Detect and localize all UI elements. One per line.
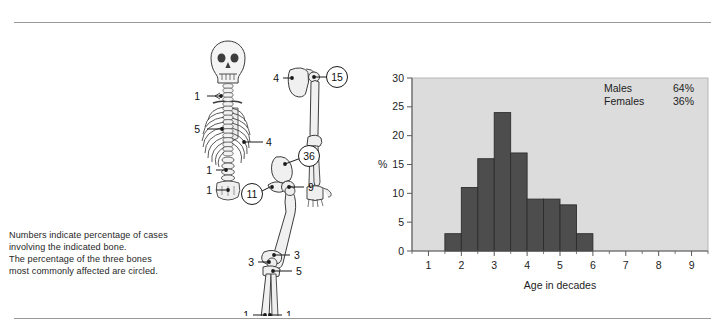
- legend-label: Males: [604, 82, 632, 94]
- humerus-bone: [310, 81, 319, 140]
- x-axis-title: Age in decades: [524, 279, 596, 291]
- label-scapula: 4: [273, 72, 279, 84]
- y-tick-label: 0: [398, 245, 404, 257]
- skull-icon: [211, 41, 245, 83]
- axial-skeleton: [202, 41, 250, 200]
- bar[interactable]: [544, 199, 560, 251]
- y-tick-label: 30: [392, 72, 404, 84]
- label-pubis: 11: [247, 188, 258, 200]
- label-clavicle: 1: [194, 90, 200, 102]
- label-lumbar-spine: 1: [206, 164, 212, 176]
- y-tick-label: 20: [392, 129, 404, 141]
- label-distal-fibula: 1: [286, 309, 292, 316]
- thoracic-spine-bones: [223, 102, 233, 156]
- legend-label: Females: [604, 95, 644, 107]
- bar[interactable]: [511, 153, 527, 251]
- top-divider: [14, 22, 711, 23]
- x-tick-label: 1: [426, 259, 432, 271]
- x-tick-label: 2: [458, 259, 464, 271]
- figure-caption: Numbers indicate percentage of cases inv…: [9, 230, 239, 278]
- chart-svg: 051015202530%123456789Age in decadesMale…: [372, 66, 717, 296]
- x-tick-label: 6: [590, 259, 596, 271]
- age-distribution-chart: 051015202530%123456789Age in decadesMale…: [372, 66, 717, 296]
- caption-line-3: The percentage of the three bones: [9, 254, 239, 266]
- label-sacrum: 1: [206, 184, 212, 196]
- bar[interactable]: [445, 234, 461, 251]
- label-femoral-neck: 9: [308, 181, 314, 193]
- y-tick-label: 5: [398, 216, 404, 228]
- legend-value: 64%: [673, 82, 694, 94]
- lumbar-spine-bones: [221, 157, 234, 181]
- bar[interactable]: [560, 205, 576, 251]
- label-ribs: 5: [194, 123, 200, 135]
- bottom-divider: [14, 318, 711, 319]
- lower-limb: [260, 157, 296, 316]
- x-tick-label: 8: [656, 259, 662, 271]
- x-tick-label: 3: [491, 259, 497, 271]
- caption-line-4: most commonly affected are circled.: [9, 266, 239, 278]
- legend-value: 36%: [673, 95, 694, 107]
- y-tick-label: 25: [392, 100, 404, 112]
- fibula-bone: [271, 274, 278, 316]
- bar[interactable]: [494, 113, 510, 251]
- scapula-bone: [288, 68, 308, 97]
- caption-line-1: Numbers indicate percentage of cases: [9, 230, 239, 242]
- skeleton-figure-panel: 1 5 4 1 1 4 15 36 11 9 3 3 5 1 1 Numbers…: [0, 24, 365, 316]
- label-ilium: 36: [303, 150, 315, 162]
- bar[interactable]: [461, 188, 477, 251]
- caption-line-2: involving the indicated bone.: [9, 242, 239, 254]
- tibia-bone: [261, 274, 271, 316]
- y-tick-label: 10: [392, 187, 404, 199]
- x-tick-label: 9: [689, 259, 695, 271]
- cervical-spine: [223, 84, 233, 102]
- y-tick-label: 15: [392, 158, 404, 170]
- label-distal-femur: 3: [294, 249, 300, 261]
- label-thoracic-spine: 4: [266, 136, 272, 148]
- label-proximal-humerus: 15: [331, 71, 343, 83]
- bar[interactable]: [576, 234, 592, 251]
- x-tick-label: 5: [557, 259, 563, 271]
- x-tick-label: 4: [524, 259, 530, 271]
- y-axis-title: %: [378, 158, 387, 170]
- label-distal-tibia: 1: [243, 309, 249, 316]
- label-tibia-shaft: 5: [296, 265, 302, 277]
- bar[interactable]: [478, 159, 494, 251]
- label-proximal-tibia: 3: [248, 256, 254, 268]
- x-tick-label: 7: [623, 259, 629, 271]
- bar[interactable]: [527, 199, 543, 251]
